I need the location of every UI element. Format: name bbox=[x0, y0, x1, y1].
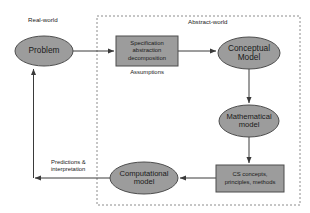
node-mathematical-model[interactable] bbox=[219, 105, 279, 137]
diagram-graphics bbox=[0, 0, 310, 213]
node-cs-concepts[interactable] bbox=[216, 165, 284, 192]
region-label-real-world: Real-world bbox=[28, 16, 58, 23]
node-specification[interactable] bbox=[116, 36, 178, 66]
edge-label-assumptions: Assumptions bbox=[116, 69, 178, 76]
node-computational-model[interactable] bbox=[110, 162, 178, 194]
diagram-canvas: Real-world Abstract-world Problem Specif… bbox=[0, 0, 310, 213]
node-problem[interactable] bbox=[15, 36, 73, 66]
node-conceptual-model[interactable] bbox=[218, 37, 280, 69]
region-label-abstract-world: Abstract-world bbox=[188, 18, 228, 25]
edge-label-predictions-interpretation: Predictions & interpretation bbox=[51, 159, 86, 174]
